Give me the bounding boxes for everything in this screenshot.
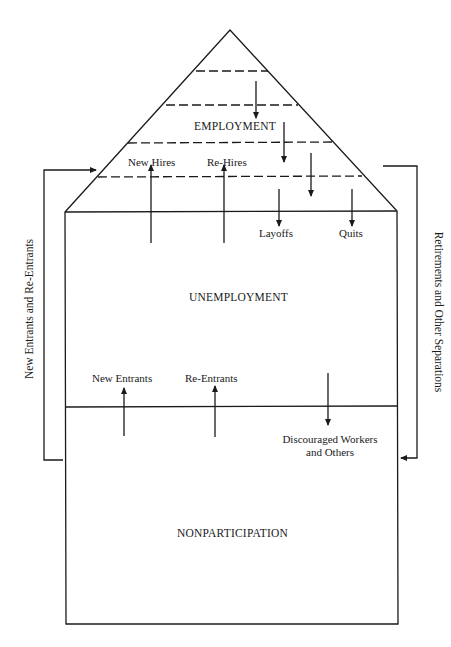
labor-flow-diagram: EMPLOYMENT UNEMPLOYMENT NONPARTICIPATION… (0, 0, 451, 647)
discouraged-line-1: Discouraged Workers (279, 433, 381, 446)
left-bracket-arrow (44, 170, 96, 460)
quits-label: Quits (339, 227, 363, 240)
right-side-flow-label: Retirements and Other Separations (433, 217, 445, 407)
layoffs-label: Layoffs (259, 227, 293, 240)
employment-boundary (65, 211, 397, 212)
nonparticipation-label: NONPARTICIPATION (177, 527, 288, 540)
new-entrants-label: New Entrants (92, 372, 152, 385)
unemployment-label: UNEMPLOYMENT (189, 291, 288, 304)
nonparticipation-boundary (66, 406, 397, 407)
discouraged-line-2: and Others (279, 446, 381, 459)
discouraged-workers-label: Discouraged Workers and Others (279, 433, 381, 459)
re-entrants-label: Re-Entrants (185, 372, 238, 385)
new-hires-label: New Hires (128, 156, 175, 169)
re-hires-label: Re-Hires (207, 156, 247, 169)
left-side-flow-label: New Entrants and Re-Entrants (23, 224, 35, 394)
right-bracket-arrow (383, 166, 417, 458)
employment-label: EMPLOYMENT (194, 120, 276, 133)
diagram-canvas (0, 0, 451, 647)
